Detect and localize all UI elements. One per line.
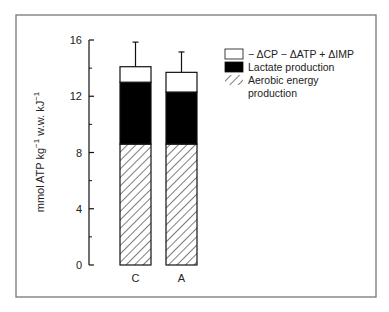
legend-swatch xyxy=(225,75,243,85)
legend-label-line2: production xyxy=(248,87,297,99)
ylabel-text: w.w. kJ xyxy=(34,101,46,139)
x-tick-label: C xyxy=(132,272,140,284)
legend-swatch xyxy=(225,62,243,72)
y-tick-label: 16 xyxy=(70,34,82,46)
bars xyxy=(120,42,197,265)
stacked-bar-chart: 0481216 CA mmol ATP kg−1 w.w. kJ−1 − ΔCP… xyxy=(0,0,389,312)
legend-swatch xyxy=(225,49,243,59)
x-tick-labels: CA xyxy=(132,272,186,284)
bar-segment-lactate xyxy=(166,92,197,144)
ylabel-superscript: −1 xyxy=(32,91,41,101)
ylabel-text: mmol ATP kg xyxy=(34,148,46,212)
legend-label: Aerobic energy xyxy=(248,74,319,86)
legend-label: − ΔCP − ΔATP + ΔIMP xyxy=(248,48,354,60)
x-tick-label: A xyxy=(178,272,186,284)
bar-segment-aerobic xyxy=(120,144,151,265)
y-tick-label: 0 xyxy=(76,259,82,271)
bar-segment-aerobic xyxy=(166,144,197,265)
legend: − ΔCP − ΔATP + ΔIMPLactate productionAer… xyxy=(225,48,354,99)
legend-label: Lactate production xyxy=(248,61,335,73)
y-tick-label: 4 xyxy=(76,203,82,215)
y-axis-label: mmol ATP kg−1 w.w. kJ−1 xyxy=(32,91,46,212)
y-axis: 0481216 xyxy=(70,34,94,271)
bar-segment-cp-atp-imp xyxy=(120,67,151,82)
bar-segment-lactate xyxy=(120,82,151,144)
y-tick-label: 8 xyxy=(76,147,82,159)
y-tick-label: 12 xyxy=(70,90,82,102)
bar-segment-cp-atp-imp xyxy=(166,72,197,92)
